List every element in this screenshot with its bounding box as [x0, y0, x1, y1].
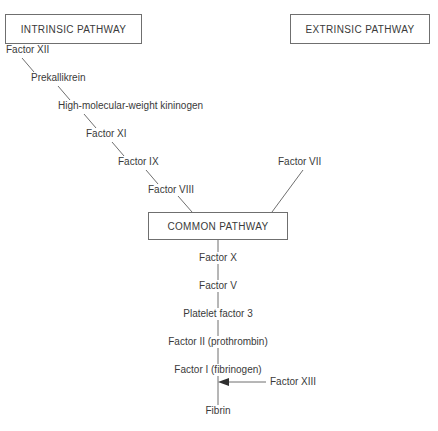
node-label: Platelet factor 3	[183, 308, 252, 319]
node-label: Factor II (prothrombin)	[168, 336, 267, 347]
node-label: Factor I (fibrinogen)	[174, 364, 261, 375]
common-pathway-label: COMMON PATHWAY	[167, 221, 268, 232]
node-fibrin: Fibrin	[205, 405, 230, 416]
connector-prekallikrein-hmwk	[58, 86, 70, 100]
node-factor-i: Factor I (fibrinogen)	[174, 364, 261, 375]
node-hmw-kininogen: High-molecular-weight kininogen	[58, 100, 203, 111]
node-label: Factor IX	[118, 156, 159, 167]
header-box-intrinsic: INTRINSIC PATHWAY	[5, 14, 142, 44]
node-factor-ix: Factor IX	[118, 156, 159, 167]
node-label: Factor VIII	[148, 184, 194, 195]
node-label: Factor XI	[86, 128, 127, 139]
node-factor-xii: Factor XII	[6, 44, 49, 55]
node-platelet-factor-3: Platelet factor 3	[183, 308, 252, 319]
node-label: Factor VII	[278, 156, 321, 167]
common-pathway-box: COMMON PATHWAY	[148, 212, 288, 240]
node-factor-ii: Factor II (prothrombin)	[168, 336, 267, 347]
node-prekallikrein: Prekallikrein	[31, 72, 85, 83]
node-label: High-molecular-weight kininogen	[58, 100, 203, 111]
node-factor-v: Factor V	[199, 280, 237, 291]
node-label: Factor XIII	[270, 376, 316, 387]
header-label-intrinsic: INTRINSIC PATHWAY	[21, 24, 127, 35]
connector-viii-common	[178, 196, 192, 212]
header-label-extrinsic: EXTRINSIC PATHWAY	[306, 24, 415, 35]
node-factor-xi: Factor XI	[86, 128, 127, 139]
connector-hmwk-xi	[84, 114, 96, 128]
node-label: Factor V	[199, 280, 237, 291]
node-label: Prekallikrein	[31, 72, 85, 83]
connector-vii-common	[272, 170, 303, 212]
node-label: Factor XII	[6, 44, 49, 55]
node-label: Fibrin	[205, 405, 230, 416]
xiii-arrowhead	[218, 378, 229, 386]
coagulation-cascade-diagram: INTRINSIC PATHWAY EXTRINSIC PATHWAY COMM…	[0, 0, 438, 431]
node-factor-viii: Factor VIII	[148, 184, 194, 195]
connector-ix-viii	[146, 170, 158, 184]
node-factor-x: Factor X	[199, 252, 237, 263]
header-box-extrinsic: EXTRINSIC PATHWAY	[290, 14, 430, 44]
node-factor-vii: Factor VII	[278, 156, 321, 167]
node-factor-xiii: Factor XIII	[270, 376, 316, 387]
node-label: Factor X	[199, 252, 237, 263]
connector-xii-prekallikrein	[22, 58, 34, 72]
connector-xi-ix	[112, 142, 124, 156]
